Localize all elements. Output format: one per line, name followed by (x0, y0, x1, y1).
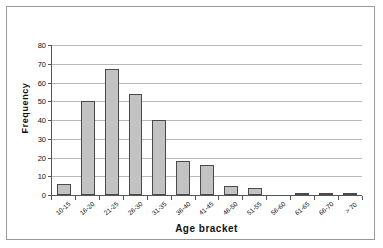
y-axis-tick-label: 30 (38, 134, 46, 143)
bar-cell (52, 45, 76, 195)
bar-series (52, 45, 362, 195)
bar-cell (124, 45, 148, 195)
y-axis-tick-label: 0 (42, 191, 46, 200)
x-label-cell: 66-70 (314, 198, 338, 224)
bar-cell (147, 45, 171, 195)
y-axis-tick-label: 40 (38, 116, 46, 125)
bar[interactable] (319, 193, 333, 195)
x-axis-tick-label: 36-40 (174, 200, 191, 216)
x-axis-tick-label: 46-50 (222, 200, 239, 216)
bar-cell (195, 45, 219, 195)
x-label-cell: 31-35 (147, 198, 171, 224)
x-label-cell: 46-50 (218, 198, 242, 224)
x-axis-tick-label: 26-30 (126, 200, 143, 216)
bar-cell (243, 45, 267, 195)
y-axis-tick-label: 80 (38, 41, 46, 50)
bar[interactable] (81, 101, 95, 195)
y-axis-tick-label: 70 (38, 59, 46, 68)
x-label-cell: 26-30 (123, 198, 147, 224)
plot-area: 01020304050607080 (51, 45, 362, 196)
x-axis-tick-label: 66-70 (317, 200, 334, 216)
x-axis-tick-label: 31-35 (150, 200, 167, 216)
x-axis-tick-label: 16-20 (78, 200, 95, 216)
bar-cell (219, 45, 243, 195)
y-axis-tick-label: 50 (38, 97, 46, 106)
bar[interactable] (295, 193, 309, 195)
bar[interactable] (152, 120, 166, 195)
x-axis-tick-label: > 70 (344, 201, 358, 215)
x-axis-tick-label: 51-55 (246, 200, 263, 216)
histogram-chart: Frequency 01020304050607080 10-1516-2021… (7, 7, 376, 241)
x-axis-tick (362, 196, 363, 200)
y-axis-tick-label: 60 (38, 78, 46, 87)
bar-cell (267, 45, 291, 195)
x-label-cell: 21-25 (99, 198, 123, 224)
y-axis-title: Frequency (20, 48, 30, 168)
x-label-cell: > 70 (338, 198, 362, 224)
x-axis-tick-label: 21-25 (102, 200, 119, 216)
bar[interactable] (200, 165, 214, 195)
x-axis-tick-label: 10-15 (54, 200, 71, 216)
bar-cell (171, 45, 195, 195)
bar-cell (290, 45, 314, 195)
bar-cell (338, 45, 362, 195)
x-axis-title: Age bracket (51, 223, 362, 234)
y-axis-tick-label: 20 (38, 153, 46, 162)
chart-frame: Frequency 01020304050607080 10-1516-2021… (6, 6, 375, 240)
bar[interactable] (176, 161, 190, 195)
bar[interactable] (57, 184, 71, 195)
bar-cell (100, 45, 124, 195)
x-label-cell: 16-20 (75, 198, 99, 224)
bar[interactable] (224, 186, 238, 195)
x-label-cell: 51-55 (242, 198, 266, 224)
bar[interactable] (343, 193, 357, 195)
x-label-cell: 41-45 (195, 198, 219, 224)
bar[interactable] (248, 188, 262, 196)
x-label-cell: 10-15 (51, 198, 75, 224)
bar[interactable] (105, 69, 119, 195)
x-axis-tick-label: 41-45 (198, 200, 215, 216)
x-label-cell: 61-65 (290, 198, 314, 224)
x-axis-tick-label: 61-65 (294, 200, 311, 216)
bar-cell (76, 45, 100, 195)
bar-cell (314, 45, 338, 195)
bar[interactable] (129, 94, 143, 195)
x-axis-tick-label: 56-60 (270, 200, 287, 216)
y-axis-tick-label: 10 (38, 172, 46, 181)
x-label-cell: 36-40 (171, 198, 195, 224)
x-axis-tick-labels: 10-1516-2021-2526-3031-3536-4041-4546-50… (51, 198, 362, 224)
x-label-cell: 56-60 (266, 198, 290, 224)
